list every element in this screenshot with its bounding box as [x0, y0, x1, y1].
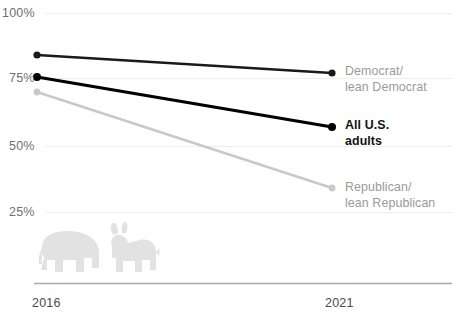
elephant-icon	[39, 231, 99, 272]
series-democrat-point-2021	[328, 69, 335, 76]
series-label-all-us-adults-line2: adults	[345, 134, 389, 150]
series-label-all-us-adults: All U.S. adults	[345, 118, 389, 149]
series-label-democrat: Democrat/ lean Democrat	[345, 64, 427, 95]
series-republican-point-2021	[329, 185, 336, 192]
series-republican	[34, 89, 336, 192]
series-all-us-adults-line	[37, 77, 332, 127]
y-axis-tick-100: 100%	[2, 6, 35, 20]
x-axis-tick-2016: 2016	[32, 296, 61, 310]
party-animals-watermark	[39, 222, 160, 272]
series-label-republican: Republican/ lean Republican	[345, 180, 435, 211]
y-axis-tick-75: 75%	[9, 71, 35, 85]
donkey-icon	[111, 222, 160, 272]
series-all-us-adults	[33, 73, 336, 131]
y-axis-tick-25: 25%	[9, 205, 35, 219]
series-label-republican-line2: lean Republican	[345, 196, 435, 212]
series-republican-line	[37, 92, 332, 188]
x-axis-tick-2021: 2021	[325, 296, 354, 310]
series-republican-point-2016	[34, 89, 41, 96]
y-axis-tick-50: 50%	[9, 139, 35, 153]
line-chart: 100% 75% 50% 25% 2016 2021 Democrat/ lea…	[0, 0, 452, 334]
series-democrat-line	[37, 55, 332, 73]
series-label-democrat-line2: lean Democrat	[345, 80, 427, 96]
chart-plot-area	[0, 0, 452, 334]
series-label-all-us-adults-line1: All U.S.	[345, 118, 389, 134]
series-democrat	[33, 51, 335, 76]
series-all-us-adults-point-2021	[328, 123, 336, 131]
series-label-democrat-line1: Democrat/	[345, 64, 427, 80]
series-democrat-point-2016	[33, 51, 40, 58]
series-label-republican-line1: Republican/	[345, 180, 435, 196]
